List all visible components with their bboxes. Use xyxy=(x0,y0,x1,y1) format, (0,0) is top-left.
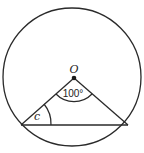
circle-diagram: O 100° c xyxy=(0,0,144,153)
base-angle-arc xyxy=(44,104,51,125)
radius-left xyxy=(21,78,74,125)
central-angle-label: 100° xyxy=(63,88,84,99)
radius-right xyxy=(74,78,128,125)
center-point xyxy=(72,76,77,81)
base-angle-label: c xyxy=(34,110,40,123)
center-label: O xyxy=(69,63,78,76)
